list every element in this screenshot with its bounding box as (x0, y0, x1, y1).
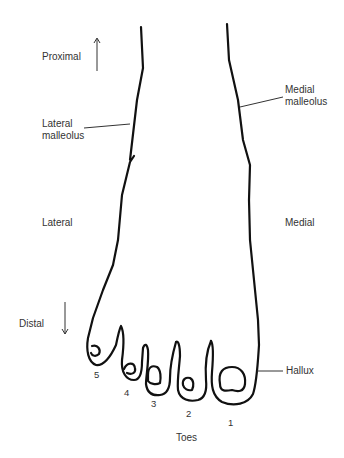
distal-label: Distal (19, 318, 44, 330)
toe-number-1: 1 (228, 417, 233, 429)
proximal-label: Proximal (42, 51, 81, 63)
medial-leg-outline (227, 24, 259, 345)
toe-number-2: 2 (186, 408, 191, 420)
distal-arrow-icon (62, 302, 68, 334)
toe-3-nail (148, 366, 161, 384)
lateral-leg-outline (88, 27, 143, 338)
medial-label: Medial (285, 217, 314, 229)
toe-4-nail (124, 364, 135, 374)
medial-malleolus-leader (240, 97, 283, 107)
toe-2-nail (183, 378, 193, 391)
proximal-arrow-icon (94, 38, 100, 71)
hallux-label: Hallux (286, 365, 314, 377)
medial-malleolus-label-line2: malleolus (285, 96, 327, 108)
hallux-outline (211, 341, 259, 404)
lateral-label: Lateral (42, 217, 73, 229)
hallux-nail (220, 367, 246, 391)
lateral-malleolus-leader (84, 124, 130, 128)
toes-label: Toes (176, 432, 197, 444)
foot-diagram (0, 0, 344, 458)
toe-number-4: 4 (124, 387, 129, 399)
toe-number-5: 5 (94, 369, 99, 381)
lateral-malleolus-label-line1: Lateral (42, 118, 73, 130)
medial-malleolus-label-line1: Medial (285, 84, 314, 96)
toe-2-outline (176, 341, 211, 401)
toe-5-nail (91, 346, 100, 356)
toe-number-3: 3 (151, 398, 156, 410)
lateral-malleolus-label-line2: malleolus (42, 130, 84, 142)
